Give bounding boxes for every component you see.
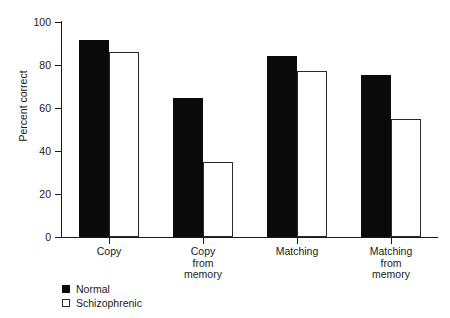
x-tick-label-line: memory (336, 269, 446, 281)
bar-chart-figure: Percent correct 020406080100 CopyCopyfro… (0, 0, 450, 318)
chart-legend: NormalSchizophrenic (62, 282, 142, 310)
x-axis-line (61, 237, 438, 238)
x-tick-label-line: memory (148, 269, 258, 281)
x-tick-label: Matchingfrommemory (336, 246, 446, 281)
y-tick-label: 0 (11, 232, 51, 242)
bar-schizophrenic (297, 71, 327, 237)
bar-schizophrenic (109, 52, 139, 237)
x-tick-mark (109, 238, 110, 244)
bar-normal (173, 98, 203, 237)
bar-schizophrenic (203, 162, 233, 237)
bar-normal (361, 75, 391, 237)
legend-item: Schizophrenic (62, 296, 142, 310)
x-tick-mark (391, 238, 392, 244)
x-tick-label-line: Matching (336, 246, 446, 258)
x-tick-mark (297, 238, 298, 244)
y-tick-mark (55, 108, 62, 109)
y-tick-label: 80 (11, 60, 51, 70)
y-tick-mark (55, 194, 62, 195)
plot-area (62, 22, 438, 237)
legend-label: Normal (76, 282, 110, 296)
legend-item: Normal (62, 282, 142, 296)
y-tick-label: 40 (11, 146, 51, 156)
y-tick-mark (55, 151, 62, 152)
open-square-icon (62, 299, 70, 307)
bar-normal (79, 40, 109, 237)
filled-square-icon (62, 285, 70, 293)
bar-schizophrenic (391, 119, 421, 237)
y-tick-mark (55, 22, 62, 23)
y-tick-mark (55, 65, 62, 66)
x-tick-mark (203, 238, 204, 244)
bar-normal (267, 56, 297, 237)
y-tick-label: 100 (11, 17, 51, 27)
y-tick-mark (55, 237, 62, 238)
y-tick-label: 20 (11, 189, 51, 199)
y-tick-label: 60 (11, 103, 51, 113)
legend-label: Schizophrenic (76, 296, 142, 310)
